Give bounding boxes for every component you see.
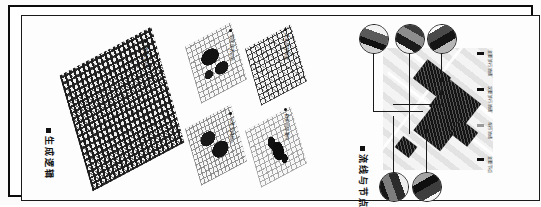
leader-line-1 [373,46,374,112]
caption-dot-icon [144,40,147,43]
callout-node-1-photo [360,25,388,53]
callout-node-4[interactable] [379,172,409,202]
legend-swatch-0 [477,52,484,55]
small-map-3 [185,104,247,185]
small-map-3-caption: 公共空间植入 [229,112,233,144]
callout-node-2-photo [396,25,424,53]
left-page-title: 生成逻辑 [44,128,53,180]
callout-node-4-photo [380,173,408,201]
legend-label-0-wrap: 主要步行流线 [487,50,491,76]
small-map-1 [185,22,247,103]
title-bullet-icon [46,128,51,133]
small-map-3-dot-icon [230,112,233,115]
leader-line-3 [441,46,442,104]
legend-swatch-2 [477,124,484,127]
right-page: 流线与节点 [281,16,541,200]
leader-line-3b [393,104,443,105]
small-map-1-caption: 肌理现状分析 [229,29,233,61]
small-map-1-fabric [185,22,247,103]
legend-swatch-3 [477,158,484,161]
map-fabric-dense [59,27,184,192]
legend-label-3-wrap: 主要节点 [487,156,491,174]
board-frame-inner: 生成逻辑 整体生成 [21,15,540,201]
callout-node-1[interactable] [359,24,389,54]
leader-line-1b [373,111,423,112]
left-page: 生成逻辑 整体生成 [22,16,281,200]
small-map-1-dot-icon [230,29,233,32]
leader-line-2 [409,46,410,134]
site-plan [383,48,493,170]
right-page-title: 流线与节点 [358,146,367,205]
callout-node-2[interactable] [395,24,425,54]
right-title-bullet-icon [360,146,365,151]
callout-node-3[interactable] [427,24,457,54]
callout-node-5-photo [413,173,441,201]
main-axonometric-map [59,27,184,192]
legend-label-2-wrap: 车行流线 [487,122,491,140]
legend-swatch-1 [477,88,484,91]
board-frame: 生成逻辑 整体生成 [8,5,533,197]
main-map-caption: 整体生成 [143,40,148,69]
presentation-board: 生成逻辑 整体生成 [0,0,541,205]
leader-line-5 [426,128,427,174]
callout-node-5[interactable] [412,172,442,202]
leader-line-4 [393,116,394,174]
callout-node-3-photo [428,25,456,53]
small-map-3-fabric [185,104,247,185]
legend-label-1-wrap: 次要步行流线 [487,86,491,112]
